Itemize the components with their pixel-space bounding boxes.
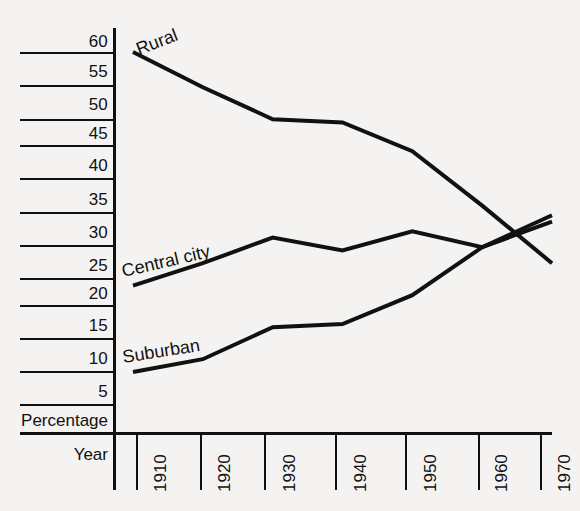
x-tick-divider <box>264 434 266 490</box>
y-tick-label-10: 10 <box>43 350 108 367</box>
gridline <box>20 85 113 87</box>
y-axis-caption: Percentage <box>18 412 108 429</box>
x-tick-label-1930: 1930 <box>281 454 298 492</box>
gridline <box>20 278 113 280</box>
gridline <box>20 245 113 247</box>
series-label-suburban: Suburban <box>121 336 201 366</box>
gridline <box>20 338 113 340</box>
x-tick-divider <box>405 434 407 490</box>
series-line-rural <box>133 52 552 263</box>
x-tick-label-1940: 1940 <box>352 454 369 492</box>
x-tick-label-1970: 1970 <box>556 454 573 492</box>
x-tick-divider <box>200 434 202 490</box>
y-tick-label-40: 40 <box>43 157 108 174</box>
line-chart: 60 55 50 45 40 35 30 25 20 15 10 5 Perce… <box>0 0 580 511</box>
y-tick-label-25: 25 <box>43 257 108 274</box>
gridline <box>20 178 113 180</box>
x-tick-label-1910: 1910 <box>152 454 169 492</box>
x-axis-line <box>20 432 552 435</box>
gridline <box>20 52 113 54</box>
x-tick-label-1920: 1920 <box>216 454 233 492</box>
x-tick-label-1960: 1960 <box>493 454 510 492</box>
x-axis-caption: Year <box>18 446 108 463</box>
gridline <box>20 371 113 373</box>
y-tick-label-5: 5 <box>43 383 108 400</box>
y-tick-label-30: 30 <box>43 224 108 241</box>
gridline <box>20 404 113 406</box>
y-tick-label-45: 45 <box>43 125 108 142</box>
series-label-rural: Rural <box>134 26 181 58</box>
y-tick-label-60: 60 <box>43 33 108 50</box>
y-tick-label-20: 20 <box>43 285 108 302</box>
y-axis-line <box>113 28 116 432</box>
y-tick-label-50: 50 <box>43 96 108 113</box>
gridline <box>20 305 113 307</box>
y-tick-label-55: 55 <box>43 63 108 80</box>
x-tick-divider <box>478 434 480 490</box>
y-tick-label-35: 35 <box>43 191 108 208</box>
x-tick-label-1950: 1950 <box>422 454 439 492</box>
x-tick-divider <box>136 434 138 490</box>
gridline <box>20 212 113 214</box>
x-tick-divider <box>540 434 542 490</box>
y-tick-label-15: 15 <box>43 317 108 334</box>
series-label-central-city: Central city <box>120 242 212 280</box>
gridline <box>20 145 113 147</box>
gridline <box>20 119 113 121</box>
y-axis-line-lower <box>113 432 116 490</box>
x-tick-divider <box>335 434 337 490</box>
